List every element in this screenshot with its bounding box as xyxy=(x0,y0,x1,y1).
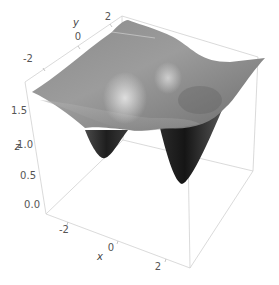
y-tick-0: 0 xyxy=(75,31,81,42)
y-tick-neg2: -2 xyxy=(23,53,33,64)
z-tick-0.0: 0.0 xyxy=(24,199,40,210)
x-tick-0: 0 xyxy=(108,242,114,253)
z-tick-0.5: 0.5 xyxy=(20,170,36,181)
y-tick-2: 2 xyxy=(105,11,111,22)
x-axis-label: x xyxy=(96,251,103,262)
y-axis-label: y xyxy=(72,17,80,28)
surface xyxy=(32,20,265,184)
z-axis: 1.5 1.0 z 0.5 0.0 xyxy=(11,105,40,210)
x-tick-neg2: -2 xyxy=(59,224,69,235)
x-axis: -2 0 x 2 xyxy=(59,222,166,272)
x-tick-2: 2 xyxy=(155,261,161,272)
surface-plot-3d: -2 0 2 y 1.5 1.0 z 0.5 0.0 -2 0 x 2 xyxy=(0,0,279,285)
z-tick-1.5: 1.5 xyxy=(11,105,27,116)
z-axis-label: z xyxy=(14,141,21,152)
